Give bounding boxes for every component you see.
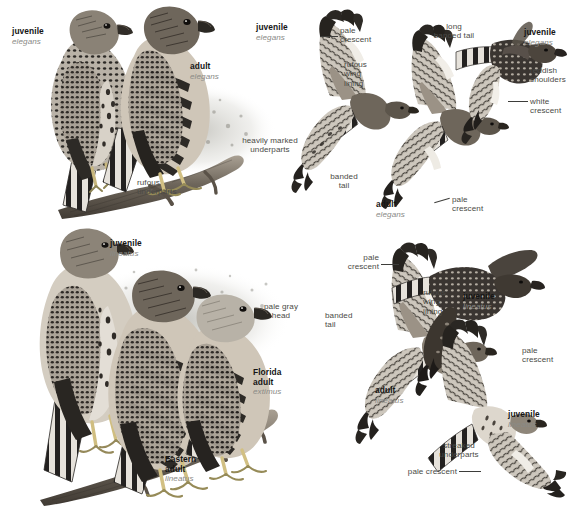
label-adult-elegans-flight: adult elegans bbox=[376, 200, 405, 219]
label-eastern-adult-lineatus: Eastern adult lineatus bbox=[165, 455, 196, 484]
label-sci: lineatus bbox=[165, 474, 196, 484]
label-text: rufous wing lining bbox=[344, 60, 367, 88]
bird-adult-elegans-perched bbox=[103, 6, 215, 195]
leader-pale-crescent-upper bbox=[320, 36, 338, 37]
label-text: long banded tail bbox=[434, 22, 475, 40]
label-sci: lineatus bbox=[463, 302, 495, 312]
label-text: banded tail bbox=[330, 172, 358, 190]
label-sci: elegans bbox=[376, 210, 405, 220]
label-banded-tail-top: banded tail bbox=[324, 172, 364, 191]
label-name: Florida adult bbox=[253, 368, 282, 387]
label-pale-crescent-bottom-2: pale crescent bbox=[522, 346, 553, 365]
label-sci: lineatus bbox=[375, 396, 404, 406]
label-name: adult bbox=[190, 62, 219, 72]
bird-juvenile-lineatus-flight-dark bbox=[392, 250, 545, 396]
leader-white-crescent bbox=[508, 101, 528, 102]
label-juvenile-lineatus-perched: juvenile lineatus bbox=[110, 239, 142, 258]
label-text: pale gray head bbox=[264, 302, 298, 320]
label-juvenile-lineatus-flight-1: juvenile lineatus bbox=[463, 292, 495, 311]
bird-adult-elegans-flight bbox=[382, 25, 509, 209]
label-name: adult bbox=[375, 386, 404, 396]
label-text: pale crescent bbox=[340, 26, 371, 44]
label-sci: elegans bbox=[256, 33, 288, 43]
label-banded-tail-bottom: banded tail bbox=[325, 311, 353, 330]
label-text: pale crescent bbox=[522, 346, 553, 364]
leader-pale-crescent-bottom-1 bbox=[381, 264, 399, 265]
label-pale-crescent-lower-top: pale crescent bbox=[452, 195, 483, 214]
label-reddish-shoulders: reddish shoulders bbox=[530, 66, 566, 85]
label-sci: elegans bbox=[190, 72, 219, 82]
label-name: juvenile bbox=[463, 292, 495, 302]
label-sci: elegans bbox=[524, 38, 556, 48]
label-juvenile-elegans-flight: juvenile elegans bbox=[256, 23, 288, 42]
label-name: juvenile bbox=[524, 28, 556, 38]
label-text: streaked underparts bbox=[439, 441, 479, 459]
label-juvenile-elegans-soaring: juvenile elegans bbox=[524, 28, 556, 47]
label-text: rufous underparts bbox=[137, 178, 177, 196]
field-guide-plate: juvenile elegans adult elegans rufous un… bbox=[0, 0, 577, 513]
label-florida-adult-extimus: Florida adult extimus bbox=[253, 368, 282, 397]
label-pale-crescent-bottom-3: pale crescent bbox=[391, 467, 457, 476]
label-juvenile-lineatus-flight-2: juvenile lineatus bbox=[508, 410, 540, 429]
label-text: banded tail bbox=[325, 311, 353, 329]
label-name: adult bbox=[376, 200, 405, 210]
label-adult-elegans-perched: adult elegans bbox=[190, 62, 219, 81]
label-name: juvenile bbox=[110, 239, 142, 249]
label-rufous-underparts: rufous underparts bbox=[137, 178, 199, 197]
leader-pale-crescent-bottom-3 bbox=[459, 471, 481, 472]
bird-adult-lineatus-flight-1 bbox=[356, 243, 497, 444]
label-name: juvenile bbox=[12, 27, 44, 37]
label-name: Eastern adult bbox=[165, 455, 196, 474]
label-sci: extimus bbox=[253, 387, 282, 397]
bird-eastern-adult-lineatus-perched bbox=[108, 270, 217, 496]
label-rufous-wing-lining-top: rufous wing lining bbox=[344, 60, 367, 88]
label-text: rufous wing lining bbox=[423, 288, 446, 316]
label-long-banded-tail: long banded tail bbox=[424, 22, 484, 41]
label-adult-lineatus-flight: adult lineatus bbox=[375, 386, 404, 405]
label-text: white crescent bbox=[530, 97, 561, 115]
label-text: heavily marked underparts bbox=[242, 136, 298, 154]
label-rufous-wing-lining-bottom: rufous wing lining bbox=[423, 288, 446, 316]
label-white-crescent: white crescent bbox=[530, 97, 561, 116]
label-text: pale crescent bbox=[408, 467, 457, 476]
label-name: juvenile bbox=[256, 23, 288, 33]
label-pale-gray-head: pale gray head bbox=[258, 302, 304, 321]
label-text: reddish shoulders bbox=[530, 66, 566, 84]
label-sci: elegans bbox=[12, 37, 44, 47]
label-sci: lineatus bbox=[110, 249, 142, 259]
label-pale-crescent-bottom-1: pale crescent bbox=[331, 253, 379, 272]
leader-pale-crescent-lower-top bbox=[434, 198, 450, 203]
label-text: pale crescent bbox=[348, 253, 379, 271]
plate-artwork bbox=[0, 0, 577, 513]
label-streaked-underparts: streaked underparts bbox=[429, 441, 489, 460]
label-sci: lineatus bbox=[508, 420, 540, 430]
label-pale-crescent-upper: pale crescent bbox=[340, 26, 371, 45]
label-juvenile-elegans-perched: juvenile elegans bbox=[12, 27, 44, 46]
label-text: pale crescent bbox=[452, 195, 483, 213]
label-name: juvenile bbox=[508, 410, 540, 420]
label-heavily-marked-underparts: heavily marked underparts bbox=[229, 136, 311, 155]
bird-juvenile-elegans-perched bbox=[51, 10, 133, 212]
bird-juvenile-lineatus-perched bbox=[40, 228, 138, 482]
